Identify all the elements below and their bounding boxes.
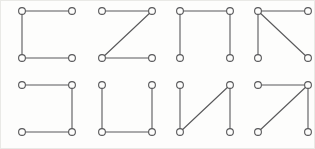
graph-node-top_left [255,82,262,89]
graph-node-bottom_left [19,55,26,62]
graph-u-shape-canvas [80,74,158,148]
graph-edge-top_left-to-bottom_right [258,11,308,58]
graph-node-bottom_right [227,129,234,136]
graph-node-top_left [99,8,106,15]
graph-node-bottom_left [19,129,26,136]
figure-root [0,0,315,149]
graph-node-bottom_left [99,55,106,62]
graph-node-top_right [305,8,312,15]
graph-node-bottom_right [227,55,234,62]
graph-node-bottom_right [149,129,156,136]
graph-pi-shape-canvas [158,0,236,74]
graph-node-bottom_right [149,55,156,62]
graph-node-top_left [99,82,106,89]
graph-node-bottom_right [305,129,312,136]
graph-top-left-fan-canvas [236,0,314,74]
graph-u-shape [80,74,158,148]
graph-n-shape-canvas [158,74,236,148]
graph-node-bottom_right [69,55,76,62]
graph-node-top_right [227,8,234,15]
graph-c-shape [0,0,78,74]
graph-node-top_left [19,8,26,15]
graph-node-bottom_right [69,129,76,136]
graph-node-top_left [177,82,184,89]
graph-reverse-c-shape [0,74,78,148]
graph-node-top_left [19,82,26,89]
graph-node-bottom_right [305,55,312,62]
graph-node-top_left [177,8,184,15]
graph-z-shape-canvas [80,0,158,74]
graph-node-bottom_left [177,129,184,136]
graph-seven-shape [236,74,314,148]
graph-pi-shape [158,0,236,74]
graph-node-bottom_left [99,129,106,136]
graph-node-top_right [305,82,312,89]
graph-edge-bottom_left-to-top_right [180,85,230,132]
graph-seven-shape-canvas [236,74,314,148]
graph-node-top_right [69,82,76,89]
graph-reverse-c-shape-canvas [0,74,78,148]
graph-top-left-fan [236,0,314,74]
graph-node-top_right [149,8,156,15]
graph-edge-top_right-to-bottom_left [258,85,308,132]
graph-n-shape [158,74,236,148]
graph-node-top_right [149,82,156,89]
graph-node-top_left [255,8,262,15]
graph-z-shape [80,0,158,74]
graph-grid [0,0,315,149]
graph-node-top_right [69,8,76,15]
graph-node-bottom_left [255,55,262,62]
graph-node-top_right [227,82,234,89]
graph-node-bottom_left [177,55,184,62]
graph-edge-top_right-to-bottom_left [102,11,152,58]
graph-node-bottom_left [255,129,262,136]
graph-c-shape-canvas [0,0,78,74]
